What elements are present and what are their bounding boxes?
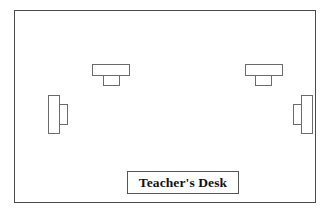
desk-top-left-chair [103,75,120,86]
desk-right-surface [301,95,313,134]
classroom-boundary: Teacher's Desk [14,10,316,203]
desk-top-right-chair [255,75,272,86]
desk-left-chair [59,104,68,125]
teacher-desk: Teacher's Desk [127,171,239,194]
classroom-layout-diagram: Teacher's Desk [0,0,332,215]
desk-right-chair [293,104,302,125]
teacher-desk-label: Teacher's Desk [139,176,227,190]
